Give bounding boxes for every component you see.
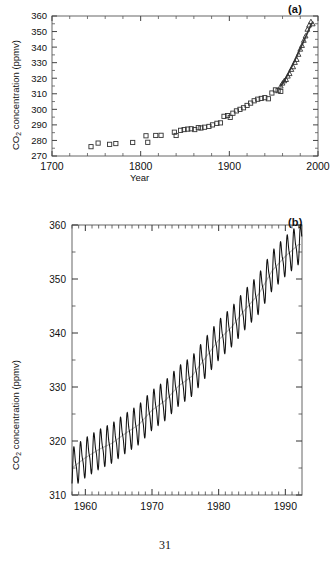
svg-text:290: 290 [31, 119, 47, 130]
svg-text:310: 310 [31, 88, 47, 99]
svg-text:280: 280 [31, 135, 47, 146]
panel-b-y-axis-title-pre: CO [10, 456, 21, 470]
svg-text:330: 330 [49, 382, 66, 393]
svg-text:350: 350 [31, 26, 47, 37]
svg-text:1900: 1900 [218, 160, 242, 172]
svg-text:360: 360 [49, 220, 66, 231]
panel-b-plot-area: 3103203303403503601960197019801990 [0, 190, 330, 535]
panel-b-y-axis-title-post: concentration (ppmv) [10, 360, 21, 452]
panel-a-y-axis-title: CO2 concentration (ppmv) [10, 40, 22, 150]
svg-text:320: 320 [49, 436, 66, 447]
svg-text:1700: 1700 [40, 160, 64, 172]
svg-text:1800: 1800 [129, 160, 153, 172]
svg-text:1970: 1970 [140, 500, 164, 512]
panel-b-y-axis-title: CO2 concentration (ppmv) [10, 360, 22, 470]
svg-text:340: 340 [49, 328, 66, 339]
svg-text:1980: 1980 [207, 500, 231, 512]
panel-a-plot-area: 2702802903003103203303403503601700180019… [0, 0, 330, 190]
panel-a-y-axis-title-pre: CO [10, 136, 21, 150]
panel-b-chart: (b) 3103203303403503601960197019801990 [0, 190, 330, 535]
page-number: 31 [0, 538, 330, 553]
panel-a-chart: (a) 270280290300310320330340350360170018… [0, 0, 330, 190]
panel-a-y-axis-title-sub: 2 [15, 132, 22, 136]
panel-a-label: (a) [288, 3, 302, 15]
panel-a-y-axis-title-post: concentration (ppmv) [10, 40, 21, 132]
svg-text:300: 300 [31, 104, 47, 115]
svg-text:2000: 2000 [306, 160, 330, 172]
panel-b-y-axis-title-sub: 2 [15, 452, 22, 456]
svg-text:1990: 1990 [274, 500, 298, 512]
svg-text:330: 330 [31, 57, 47, 68]
svg-text:310: 310 [49, 490, 66, 501]
svg-text:320: 320 [31, 73, 47, 84]
svg-text:360: 360 [31, 10, 47, 21]
panel-b-label: (b) [288, 216, 303, 228]
panel-a-x-axis-title: Year [130, 172, 149, 183]
svg-text:350: 350 [49, 274, 66, 285]
svg-text:340: 340 [31, 42, 47, 53]
svg-text:1960: 1960 [74, 500, 98, 512]
